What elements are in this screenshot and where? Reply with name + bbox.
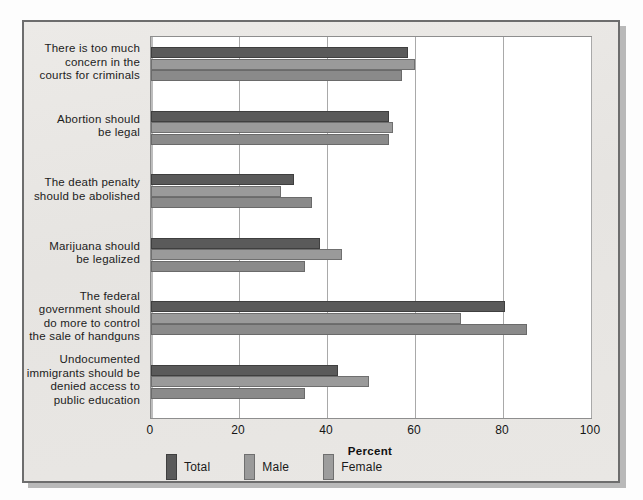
category-label-4: Marijuana shouldbe legalized <box>0 240 140 267</box>
bar-total-group-6 <box>151 365 338 376</box>
bar-total-group-1 <box>151 47 408 58</box>
bar-female-group-1 <box>151 70 402 81</box>
x-tick-label-20: 20 <box>231 423 245 437</box>
category-label-line: Marijuana should <box>0 240 140 254</box>
x-tick-label-100: 100 <box>580 423 601 437</box>
category-label-line: immigrants should be <box>0 367 140 381</box>
bar-female-group-3 <box>151 197 312 208</box>
bar-male-group-2 <box>151 122 393 133</box>
bar-male-group-6 <box>151 376 369 387</box>
plot-area <box>150 36 592 419</box>
legend-item-female[interactable]: Female <box>323 454 382 480</box>
legend-item-total[interactable]: Total <box>166 454 210 480</box>
category-label-line: the sale of handguns <box>0 330 140 344</box>
category-label-line: government should <box>0 303 140 317</box>
category-label-line: should be abolished <box>0 190 140 204</box>
bar-female-group-2 <box>151 134 389 145</box>
category-label-line: concern in the <box>0 56 140 70</box>
category-label-2: Abortion shouldbe legal <box>0 113 140 140</box>
category-label-line: do more to control <box>0 317 140 331</box>
legend-label-female: Female <box>341 460 382 474</box>
gridline-20 <box>239 37 240 418</box>
category-label-5: The federalgovernment shoulddo more to c… <box>0 290 140 344</box>
x-tick-label-0: 0 <box>147 423 154 437</box>
gridline-40 <box>327 37 328 418</box>
category-label-line: denied access to <box>0 380 140 394</box>
x-tick-label-40: 40 <box>319 423 333 437</box>
bar-male-group-1 <box>151 59 415 70</box>
category-label-line: public education <box>0 394 140 408</box>
x-tick-label-60: 60 <box>407 423 421 437</box>
x-axis: 020406080100 <box>150 423 590 441</box>
bar-total-group-4 <box>151 238 320 249</box>
bar-total-group-3 <box>151 174 294 185</box>
legend-label-total: Total <box>184 460 210 474</box>
category-label-line: There is too much <box>0 42 140 56</box>
category-label-line: Abortion should <box>0 113 140 127</box>
gridline-60 <box>415 37 416 418</box>
bar-female-group-6 <box>151 388 305 399</box>
category-label-1: There is too muchconcern in thecourts fo… <box>0 42 140 83</box>
gridline-80 <box>503 37 504 418</box>
category-label-line: courts for criminals <box>0 69 140 83</box>
category-label-3: The death penaltyshould be abolished <box>0 176 140 203</box>
figure-frame: There is too muchconcern in thecourts fo… <box>22 20 620 483</box>
gridline-100 <box>591 37 592 418</box>
scanned-page: There is too muchconcern in thecourts fo… <box>0 0 643 500</box>
bar-total-group-2 <box>151 111 389 122</box>
category-label-line: The death penalty <box>0 176 140 190</box>
bar-total-group-5 <box>151 301 505 312</box>
chart-legend: TotalMaleFemale <box>166 454 382 480</box>
category-label-line: be legalized <box>0 253 140 267</box>
legend-swatch-total <box>166 454 177 480</box>
legend-label-male: Male <box>262 460 289 474</box>
legend-item-male[interactable]: Male <box>244 454 289 480</box>
bar-male-group-3 <box>151 186 281 197</box>
bar-male-group-4 <box>151 249 342 260</box>
category-label-line: Undocumented <box>0 353 140 367</box>
legend-swatch-male <box>244 454 255 480</box>
bar-male-group-5 <box>151 313 461 324</box>
category-label-line: The federal <box>0 290 140 304</box>
category-label-6: Undocumentedimmigrants should bedenied a… <box>0 353 140 407</box>
bar-female-group-5 <box>151 324 527 335</box>
x-tick-label-80: 80 <box>495 423 509 437</box>
bar-female-group-4 <box>151 261 305 272</box>
legend-swatch-female <box>323 454 334 480</box>
category-label-line: be legal <box>0 126 140 140</box>
